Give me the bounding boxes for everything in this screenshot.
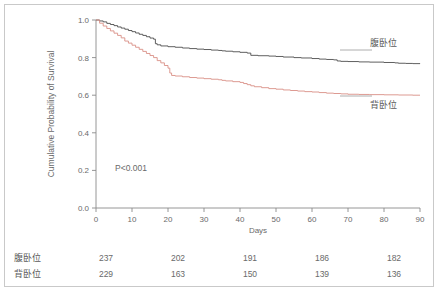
risk-table-cell: 136 bbox=[387, 269, 401, 279]
x-tick-label: 10 bbox=[128, 215, 137, 224]
x-axis-title: Days bbox=[249, 226, 267, 235]
risk-table-cell: 237 bbox=[99, 253, 113, 263]
risk-table-cell: 150 bbox=[243, 269, 257, 279]
plot-canvas: 0.00.20.40.60.81.0 0102030405060708090 D… bbox=[0, 0, 438, 291]
risk-row-label-prone: 腹卧位 bbox=[14, 252, 41, 263]
x-tick-label: 80 bbox=[380, 215, 389, 224]
x-tick-label: 30 bbox=[200, 215, 209, 224]
survival-chart-figure: 0.00.20.40.60.81.0 0102030405060708090 D… bbox=[0, 0, 438, 291]
x-tick-label: 90 bbox=[416, 215, 425, 224]
x-tick-label: 70 bbox=[344, 215, 353, 224]
risk-table-cell: 139 bbox=[315, 269, 329, 279]
risk-table-cell: 186 bbox=[315, 253, 329, 263]
x-axis-ticks: 0102030405060708090 bbox=[94, 208, 425, 224]
x-tick-label: 50 bbox=[272, 215, 281, 224]
x-tick-label: 40 bbox=[236, 215, 245, 224]
legend-label-prone: 腹卧位 bbox=[370, 37, 397, 48]
x-tick-label: 0 bbox=[94, 215, 99, 224]
y-tick-label: 0.6 bbox=[78, 91, 90, 100]
legend-label-supine: 背卧位 bbox=[370, 99, 397, 110]
x-tick-label: 60 bbox=[308, 215, 317, 224]
risk-table-cell: 202 bbox=[171, 253, 185, 263]
y-tick-label: 1.0 bbox=[78, 16, 90, 25]
risk-table-cell: 229 bbox=[99, 269, 113, 279]
y-tick-label: 0.2 bbox=[78, 166, 90, 175]
risk-row-label-supine: 背卧位 bbox=[14, 268, 41, 279]
risk-table-cell: 163 bbox=[171, 269, 185, 279]
y-tick-label: 0.8 bbox=[78, 54, 90, 63]
risk-table-values: 237202191186182229163150139136 bbox=[99, 253, 401, 279]
risk-table-cell: 191 bbox=[243, 253, 257, 263]
survival-curve-supine bbox=[96, 20, 420, 95]
y-axis-ticks: 0.00.20.40.60.81.0 bbox=[78, 16, 96, 213]
y-tick-label: 0.0 bbox=[78, 204, 90, 213]
p-value-annotation: P<0.001 bbox=[115, 163, 147, 173]
x-tick-label: 20 bbox=[164, 215, 173, 224]
risk-table-cell: 182 bbox=[387, 253, 401, 263]
y-axis-title: Cumulative Probability of Survival bbox=[46, 51, 56, 178]
y-tick-label: 0.4 bbox=[78, 129, 90, 138]
